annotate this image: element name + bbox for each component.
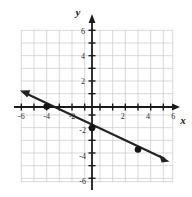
coordinate-graph: -6 -4 -2 2 4 6 6 4 2 -2 -4 -6 y x [0,0,192,197]
x-tick-label: 4 [146,112,150,121]
y-axis-arrowhead [89,14,96,23]
y-tick-label: -2 [79,126,86,135]
y-tick-label: -6 [79,177,86,186]
x-tick-label: -4 [43,112,50,121]
x-tick-label: 6 [171,112,175,121]
y-tick-label: -4 [79,152,86,161]
y-axis-label: y [74,6,81,18]
y-tick-label: 4 [81,52,85,61]
graph-canvas: -6 -4 -2 2 4 6 6 4 2 -2 -4 -6 y x [0,0,192,197]
x-tick-label: 2 [121,112,125,121]
y-tick-label: 6 [81,27,85,36]
data-point [135,146,142,153]
x-axis-arrowhead [172,104,180,111]
data-point [43,103,50,110]
y-tick-label: 2 [81,77,85,86]
data-point [89,125,96,132]
x-axis-label: x [179,114,186,126]
x-tick-label: -6 [18,112,25,121]
